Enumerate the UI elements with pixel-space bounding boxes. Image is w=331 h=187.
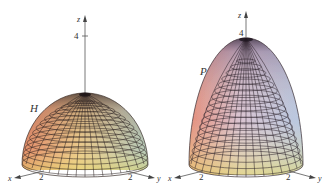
figure-stage: z 4 H x 2 2 y xyxy=(0,0,331,187)
surfaces-diagram: z 4 H x 2 2 y xyxy=(0,0,331,187)
y-tick-label: 2 xyxy=(128,172,133,182)
hemisphere-top xyxy=(79,93,91,97)
z-tick-label: 4 xyxy=(74,31,79,41)
surface-label-P: P xyxy=(199,65,207,77)
x-axis-label: x xyxy=(167,174,172,183)
x-axis-arrow-icon xyxy=(174,175,181,179)
paraboloid-surface xyxy=(185,35,307,177)
paraboloid-top xyxy=(239,38,253,42)
z-axis-arrow-icon xyxy=(244,11,248,18)
y-axis xyxy=(289,171,311,177)
x-tick-label: 2 xyxy=(199,172,204,182)
paraboloid-figure: z 4 P x 2 2 y xyxy=(167,11,322,183)
y-tick-label: 2 xyxy=(286,172,291,182)
surface-label-H: H xyxy=(29,102,39,114)
y-axis-label: y xyxy=(156,174,161,183)
z-tick-label: 4 xyxy=(239,28,244,38)
y-axis-arrow-icon xyxy=(309,175,316,179)
z-axis-label: z xyxy=(237,11,242,20)
hemisphere-figure: z 4 H x 2 2 y xyxy=(7,15,161,183)
x-tick-label: 2 xyxy=(39,172,44,182)
y-axis-arrow-icon xyxy=(148,175,155,179)
z-axis-label: z xyxy=(76,15,81,24)
y-axis-label: y xyxy=(317,174,322,183)
z-axis-arrow-icon xyxy=(83,15,87,22)
hemisphere-surface xyxy=(20,90,150,177)
x-axis-arrow-icon xyxy=(14,175,21,179)
x-axis-label: x xyxy=(7,174,12,183)
